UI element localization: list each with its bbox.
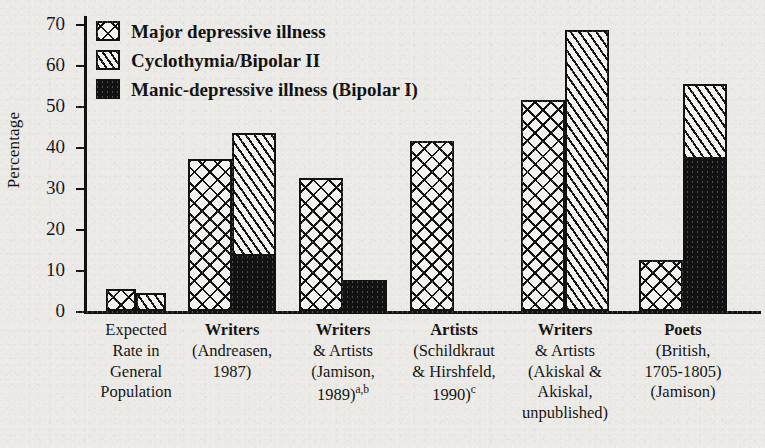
bar-segment-cyclothymia [234, 133, 274, 254]
x-label-title: Writers [166, 320, 298, 341]
x-label-line: (Akiskal & [495, 362, 635, 383]
x-label-line: (British, [617, 341, 749, 362]
y-axis-tick: 60 [76, 65, 84, 67]
bar-bipolar-stack [565, 30, 609, 311]
y-axis-line [84, 16, 87, 314]
y-axis-tick: 20 [76, 229, 84, 231]
bar-major-depressive [106, 289, 136, 311]
bar-segment-cyclothymia [567, 30, 607, 309]
y-axis-tick-label: 20 [46, 219, 65, 238]
x-axis-group-label: Poets(British,1705-1805)(Jamison) [617, 320, 749, 403]
x-label-title: Writers [495, 320, 635, 341]
y-axis-tick-label: 30 [46, 178, 65, 197]
bar-chart: Major depressive illness Cyclothymia/Bip… [0, 0, 765, 448]
bar-bipolar-stack [136, 293, 166, 311]
y-axis-label: Percentage [4, 112, 24, 189]
y-axis-tick-label: 10 [46, 260, 65, 279]
bar-major-depressive [410, 141, 454, 311]
chart-legend: Major depressive illness Cyclothymia/Bip… [96, 18, 418, 105]
bar-segment-cyclothymia [138, 293, 164, 309]
legend-item-label: Manic-depressive illness (Bipolar I) [131, 80, 418, 99]
bar-major-depressive [299, 178, 343, 311]
y-axis-tick: 50 [76, 106, 84, 108]
bar-bipolar-stack [683, 84, 727, 311]
bar-segment-manic-depressive [685, 157, 725, 309]
bar-bipolar-stack [232, 133, 276, 311]
x-label-line: 1705-1805) [617, 362, 749, 383]
y-axis-tick-label: 60 [46, 55, 65, 74]
x-label-line: & Artists [495, 341, 635, 362]
x-label-line: (Jamison) [617, 382, 749, 403]
x-axis-line [84, 311, 761, 314]
x-axis-group-label: Writers(Andreasen,1987) [166, 320, 298, 382]
legend-item-major-depressive: Major depressive illness [96, 18, 418, 44]
bar-segment-manic-depressive [234, 254, 274, 309]
y-axis-tick-label: 50 [46, 96, 65, 115]
solid-black-swatch-icon [96, 79, 120, 99]
bar-segment-manic-depressive [345, 280, 385, 309]
diagonal-hatch-swatch-icon [96, 50, 120, 70]
x-label-title: Poets [617, 320, 749, 341]
bar-major-depressive [521, 100, 565, 311]
bar-segment-cyclothymia [685, 84, 725, 158]
legend-item-cyclothymia-bipolar-ii: Cyclothymia/Bipolar II [96, 47, 418, 73]
bar-segment-major-depressive [523, 102, 563, 309]
x-label-line: Akiskal, [495, 382, 635, 403]
x-label-footnote-marker: c [471, 383, 476, 395]
bar-major-depressive [188, 159, 232, 311]
y-axis-tick: 70 [76, 24, 84, 26]
bar-segment-major-depressive [190, 161, 230, 309]
y-axis-tick-label: 0 [56, 301, 66, 320]
x-axis-labels: ExpectedRate inGeneralPopulationWriters(… [84, 320, 761, 448]
legend-item-label: Major depressive illness [131, 22, 326, 41]
x-label-line: unpublished) [495, 403, 635, 424]
y-axis-tick: 0 [76, 311, 84, 313]
bar-segment-major-depressive [301, 180, 341, 309]
bar-segment-major-depressive [108, 291, 134, 309]
legend-item-manic-depressive-bipolar-i: Manic-depressive illness (Bipolar I) [96, 76, 418, 102]
x-label-line: 1987) [166, 362, 298, 383]
bar-segment-major-depressive [641, 262, 681, 309]
x-axis-group-label: Writers& Artists(Akiskal &Akiskal,unpubl… [495, 320, 635, 424]
legend-item-label: Cyclothymia/Bipolar II [131, 51, 320, 70]
y-axis-tick: 30 [76, 188, 84, 190]
bar-segment-major-depressive [412, 143, 452, 309]
y-axis-tick: 10 [76, 270, 84, 272]
x-label-footnote-marker: a,b [355, 383, 369, 395]
x-label-line: (Andreasen, [166, 341, 298, 362]
y-axis-tick-label: 70 [46, 14, 65, 33]
y-axis-tick-label: 40 [46, 137, 65, 156]
y-axis-tick: 40 [76, 147, 84, 149]
bar-bipolar-stack [343, 280, 387, 311]
crosshatch-swatch-icon [96, 21, 120, 41]
x-label-line: Population [73, 382, 199, 403]
bar-major-depressive [639, 260, 683, 311]
